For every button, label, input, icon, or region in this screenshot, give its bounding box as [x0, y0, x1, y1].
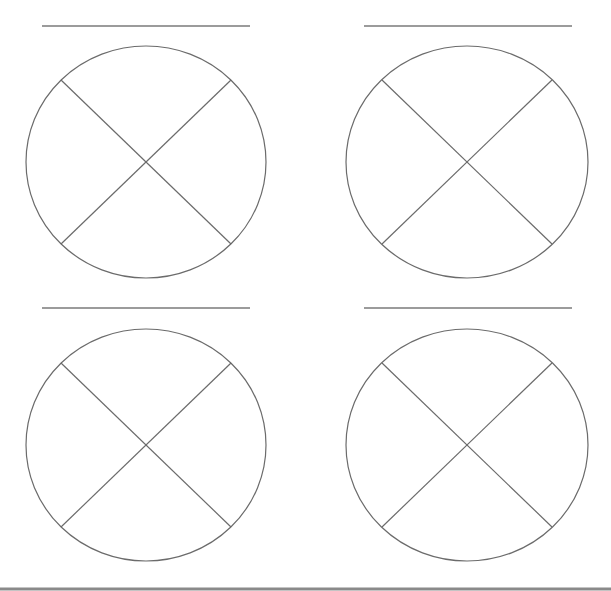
fraction-circle-group	[346, 26, 588, 278]
fraction-worksheet	[0, 0, 611, 591]
fraction-circle-group	[26, 308, 266, 561]
fraction-circle-group	[346, 308, 588, 561]
fraction-circle-group	[26, 26, 266, 278]
